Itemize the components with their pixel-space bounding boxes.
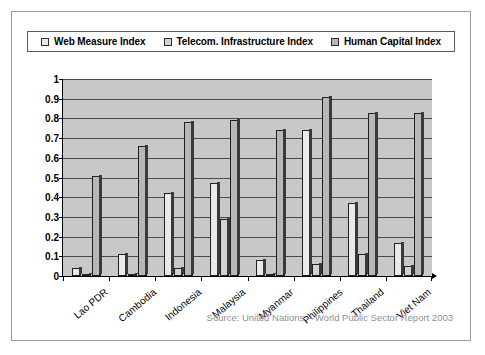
y-tick-label: 0.3: [45, 211, 59, 222]
legend-entry-telecom-infrastructure-index: Telecom. Infrastructure Index: [164, 36, 313, 47]
y-tick-label: 0.1: [45, 251, 59, 262]
bar: [184, 122, 193, 276]
bar: [164, 193, 173, 276]
legend-swatch-web-measure-icon: [41, 38, 49, 46]
bar-group: [248, 79, 294, 276]
bar-group: [386, 79, 432, 276]
bar: [394, 243, 403, 276]
bar: [348, 203, 357, 276]
x-axis-label: Lao PDR: [72, 286, 110, 321]
bar-group: [155, 79, 201, 276]
legend-entry-web-measure-index: Web Measure Index: [41, 36, 145, 47]
bar: [92, 176, 101, 276]
bar: [256, 260, 265, 276]
x-axis-arrow-icon: [432, 273, 437, 279]
bar: [220, 219, 229, 276]
bar: [302, 130, 311, 276]
x-label-cell: Lao PDR: [63, 276, 109, 326]
bar: [404, 266, 413, 276]
x-axis-label: Cambodia: [117, 286, 159, 324]
bar-group: [63, 79, 109, 276]
x-label-cell: Indonesia: [155, 276, 201, 326]
bar: [322, 97, 331, 276]
x-label-cell: Cambodia: [109, 276, 155, 326]
bar: [138, 146, 147, 276]
y-tick-label: 0.6: [45, 152, 59, 163]
bar: [358, 254, 367, 276]
bar: [368, 113, 377, 277]
y-tick-label: 0.7: [45, 133, 59, 144]
plot-area: 00.10.20.30.40.50.60.70.80.91 Lao PDRCam…: [62, 79, 432, 277]
y-tick-label: 0.9: [45, 93, 59, 104]
bar: [210, 183, 219, 276]
y-tick-label: 0.4: [45, 192, 59, 203]
y-tick-label: 0.2: [45, 231, 59, 242]
bar: [82, 274, 91, 276]
legend-label-web-measure: Web Measure Index: [54, 36, 145, 47]
bar: [72, 268, 81, 276]
legend-label-human-capital: Human Capital Index: [344, 36, 441, 47]
legend-label-telecom-infrastructure: Telecom. Infrastructure Index: [177, 36, 313, 47]
bar: [312, 264, 321, 276]
bar-group: [340, 79, 386, 276]
bar-group: [109, 79, 155, 276]
chart-figure: Web Measure Index Telecom. Infrastructur…: [11, 11, 471, 341]
bar: [230, 120, 239, 276]
x-axis-label: Indonesia: [163, 286, 203, 322]
plot-wrapper: 00.10.20.30.40.50.60.70.80.91 Lao PDRCam…: [62, 79, 432, 277]
legend-swatch-telecom-infrastructure-icon: [164, 38, 172, 46]
bar: [174, 268, 183, 276]
bar: [128, 274, 137, 276]
bar: [118, 254, 127, 276]
bar: [266, 274, 275, 276]
legend-entry-human-capital-index: Human Capital Index: [331, 36, 441, 47]
bar-groups: [63, 79, 432, 276]
bar: [414, 113, 423, 277]
source-note: Source: United Nations – World Public Se…: [207, 312, 453, 323]
legend-swatch-human-capital-icon: [331, 38, 339, 46]
y-tick-label: 0.5: [45, 172, 59, 183]
bar-group: [294, 79, 340, 276]
bar-group: [201, 79, 247, 276]
bar: [276, 130, 285, 276]
y-tick-label: 0.8: [45, 113, 59, 124]
chart-legend: Web Measure Index Telecom. Infrastructur…: [27, 31, 455, 52]
